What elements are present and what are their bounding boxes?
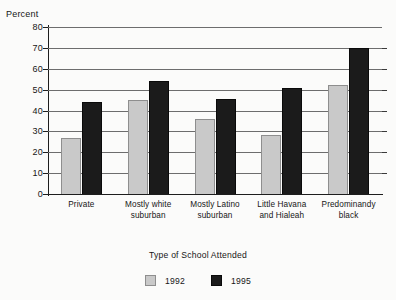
x-axis-category-label: Private: [48, 199, 115, 210]
y-axis-tick-mark: [43, 152, 48, 153]
y-axis-tick-mark-right: [382, 69, 387, 70]
y-axis-tick-mark-right: [382, 131, 387, 132]
bar-1992-predominantly-black: [328, 85, 348, 194]
y-axis-tick-mark: [43, 69, 48, 70]
y-axis-tick-label: 30: [33, 126, 43, 136]
category-label-line: and Hialeah: [248, 210, 315, 221]
plot-area: [48, 27, 382, 194]
y-axis-tick-label: 80: [33, 22, 43, 32]
category-label-line: Predominandy: [315, 199, 382, 210]
category-label-line: Mostly white: [115, 199, 182, 210]
y-axis-tick-label: 50: [33, 85, 43, 95]
y-axis-title: Percent: [6, 9, 38, 19]
gridline: [48, 48, 382, 49]
bar-1992-mostly-white-suburban: [128, 100, 148, 194]
x-axis-category-label: Little Havanaand Hialeah: [248, 199, 315, 221]
y-axis-tick-label: 10: [33, 168, 43, 178]
category-label-line: suburban: [115, 210, 182, 221]
x-axis-line: [48, 194, 383, 195]
y-axis-tick-mark: [43, 27, 48, 28]
category-label-line: black: [315, 210, 382, 221]
x-axis-title: Type of School Attended: [0, 250, 396, 260]
y-axis-tick-mark: [43, 194, 48, 195]
bar-1995-predominantly-black: [349, 48, 369, 194]
legend-swatch-icon: [211, 275, 222, 286]
y-axis-tick-mark: [43, 48, 48, 49]
y-axis-tick-label: 20: [33, 147, 43, 157]
bar-1992-little-havana-and-hialeah: [261, 135, 281, 194]
legend-label: 1995: [231, 276, 251, 286]
bar-1995-private: [82, 102, 102, 194]
bar-1992-private: [61, 138, 81, 194]
category-label-line: suburban: [182, 210, 249, 221]
bar-1995-mostly-white-suburban: [149, 81, 169, 194]
y-axis-tick-mark-right: [382, 48, 387, 49]
y-axis-tick-label: 40: [33, 106, 43, 116]
gridline: [48, 69, 382, 70]
chart-legend: 19921995: [0, 275, 396, 286]
y-axis-tick-mark-right: [382, 152, 387, 153]
category-label-line: Private: [48, 199, 115, 210]
bar-1995-mostly-latino-suburban: [216, 99, 236, 194]
y-axis-tick-mark: [43, 131, 48, 132]
legend-swatch-icon: [145, 275, 156, 286]
y-axis-tick-mark: [43, 90, 48, 91]
x-axis-category-label: Mostly whitesuburban: [115, 199, 182, 221]
legend-label: 1992: [165, 276, 185, 286]
y-axis-tick-label: 0: [38, 189, 43, 199]
y-axis-tick-mark: [43, 111, 48, 112]
y-axis-tick-mark-right: [382, 173, 387, 174]
y-axis-tick-mark-right: [382, 90, 387, 91]
y-axis-tick-mark: [43, 173, 48, 174]
legend-item-1995: 1995: [211, 275, 251, 286]
bar-1992-mostly-latino-suburban: [195, 119, 215, 194]
category-label-line: Little Havana: [248, 199, 315, 210]
x-axis-category-label: Predominandyblack: [315, 199, 382, 221]
bar-1995-little-havana-and-hialeah: [282, 88, 302, 194]
y-axis-tick-mark-right: [382, 111, 387, 112]
x-axis-category-label: Mostly Latinosuburban: [182, 199, 249, 221]
legend-item-1992: 1992: [145, 275, 185, 286]
category-label-line: Mostly Latino: [182, 199, 249, 210]
gridline: [48, 27, 382, 28]
y-axis-tick-label: 60: [33, 64, 43, 74]
y-axis-tick-label: 70: [33, 43, 43, 53]
